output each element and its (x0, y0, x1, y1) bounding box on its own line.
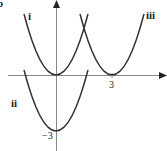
x-tick-label: 3 (109, 79, 114, 90)
part-label: b (0, 0, 3, 9)
x-axis-arrow-icon (159, 72, 167, 79)
y-axis-arrow-icon (53, 0, 60, 8)
curve-iii (80, 14, 144, 75)
parabola-diagram: b i iii ii 3 −3 (0, 0, 167, 151)
curve-label-ii: ii (11, 97, 17, 109)
curve-label-iii: iii (146, 9, 155, 21)
curve-label-i: i (28, 10, 31, 22)
y-tick-label: −3 (42, 130, 53, 141)
